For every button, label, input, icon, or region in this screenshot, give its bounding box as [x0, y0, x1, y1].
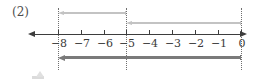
tick-neg4: [149, 30, 150, 35]
ray-top-endpoint: [125, 11, 126, 15]
tick-neg5: [126, 30, 127, 35]
ray-top-segment: [64, 12, 126, 14]
tick-neg8: [58, 30, 59, 35]
clipped-mark-icon: [32, 70, 44, 79]
number-line-figure: (2) −8 −7 −6 −5 −4 −3 −2 −1 0: [0, 0, 272, 83]
axis-line: [34, 34, 240, 35]
tick-neg6: [104, 30, 105, 35]
tick-label-neg5: −5: [119, 38, 135, 50]
ray-middle-segment: [132, 22, 241, 24]
item-number-label: (2): [12, 5, 29, 19]
tick-label-neg4: −4: [142, 38, 158, 50]
tick-label-neg3: −3: [165, 38, 181, 50]
tick-label-zero: 0: [239, 38, 246, 50]
tick-neg2: [195, 30, 196, 35]
tick-neg1: [218, 30, 219, 35]
tick-neg7: [81, 30, 82, 35]
axis-left-arrowhead-icon: [28, 31, 35, 37]
ray-bottom-segment: [65, 56, 241, 59]
tick-label-neg6: −6: [97, 38, 113, 50]
tick-label-neg1: −1: [211, 38, 227, 50]
ray-middle-endpoint: [240, 21, 241, 25]
tick-zero: [241, 30, 242, 35]
tick-label-neg2: −2: [188, 38, 204, 50]
tick-neg3: [172, 30, 173, 35]
ray-bottom-endpoint: [240, 55, 241, 60]
tick-label-neg7: −7: [74, 38, 90, 50]
ray-middle: [126, 21, 241, 25]
ray-bottom: [58, 55, 241, 60]
ray-bottom-arrowhead-icon: [58, 55, 65, 61]
ray-top: [58, 11, 126, 15]
tick-label-neg8: −8: [51, 38, 67, 50]
